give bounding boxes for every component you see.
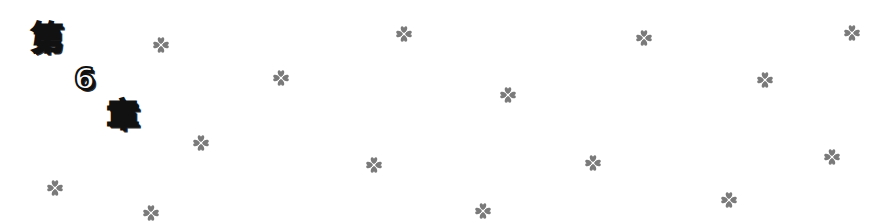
- four-leaf-clover-icon: [45, 178, 65, 198]
- chapter-char-shou: 章: [107, 99, 139, 131]
- four-leaf-clover-icon: [394, 24, 414, 44]
- four-leaf-clover-icon: [583, 153, 603, 173]
- four-leaf-clover-icon: [719, 190, 739, 210]
- four-leaf-clover-icon: [498, 85, 518, 105]
- four-leaf-clover-icon: [755, 70, 775, 90]
- four-leaf-clover-icon: [141, 203, 161, 223]
- chapter-number: 6: [74, 64, 95, 94]
- four-leaf-clover-icon: [364, 155, 384, 175]
- four-leaf-clover-icon: [822, 147, 842, 167]
- four-leaf-clover-icon: [151, 35, 171, 55]
- chapter-char-dai: 第: [31, 22, 63, 54]
- four-leaf-clover-icon: [191, 133, 211, 153]
- four-leaf-clover-icon: [842, 23, 862, 43]
- four-leaf-clover-icon: [473, 201, 493, 221]
- four-leaf-clover-icon: [634, 28, 654, 48]
- four-leaf-clover-icon: [271, 68, 291, 88]
